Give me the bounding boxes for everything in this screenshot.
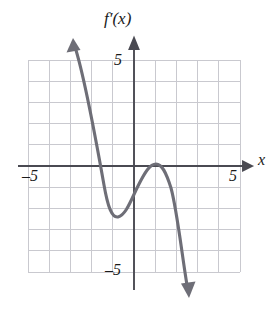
x-axis-arrowhead	[243, 162, 252, 171]
x-axis-label: x	[258, 152, 265, 168]
function-plot	[0, 0, 277, 312]
curve-arrowhead-bottom	[181, 282, 196, 299]
function-title-label: f′(x)	[104, 10, 131, 27]
x-axis-tick-label-positive-five: 5	[229, 168, 237, 184]
coordinate-axes	[18, 38, 252, 290]
y-axis-arrowhead	[130, 38, 139, 49]
x-axis-tick-label-negative-five: –5	[22, 168, 38, 184]
curve-arrowhead-top	[67, 38, 81, 53]
y-axis-tick-label-positive-five: 5	[114, 52, 122, 68]
y-axis-tick-label-negative-five: –5	[105, 262, 121, 278]
graph-figure: f′(x) –5 5 5 –5 x	[0, 0, 277, 312]
